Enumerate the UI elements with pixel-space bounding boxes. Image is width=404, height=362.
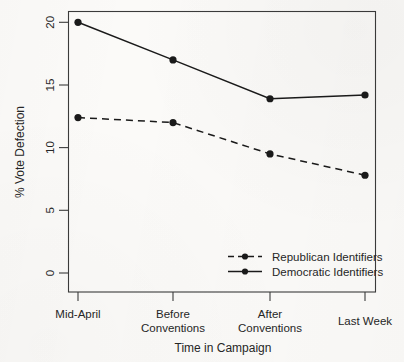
data-point-republican-2	[266, 150, 273, 157]
y-tick-label-10: 10	[44, 141, 56, 154]
y-tick-label-20: 20	[44, 16, 56, 29]
series-democratic-identifiers	[74, 19, 368, 103]
chart-legend: Republican Identifiers Democratic Identi…	[228, 251, 383, 278]
x-label-mid-april: Mid-April	[55, 308, 100, 320]
legend-item-republican: Republican Identifiers	[228, 251, 383, 263]
x-label-after: After	[258, 308, 282, 320]
y-axis-tick-labels: 20 15 10 5 0	[44, 16, 56, 276]
data-point-democratic-3	[361, 91, 368, 98]
series-points-democratic	[74, 19, 368, 103]
series-republican-identifiers	[74, 114, 368, 179]
x-label-after-conventions: Conventions	[238, 322, 302, 334]
legend-item-democratic: Democratic Identifiers	[228, 266, 383, 278]
y-tick-label-5: 5	[44, 207, 56, 213]
y-axis-title: % Vote Defection	[13, 106, 27, 198]
y-tick-label-15: 15	[44, 79, 56, 92]
x-axis-category-labels: Mid-April Before Conventions After Conve…	[55, 308, 392, 334]
x-label-last-week: Last Week	[338, 315, 392, 327]
legend-label-republican: Republican Identifiers	[272, 251, 383, 263]
data-point-republican-0	[74, 114, 81, 121]
data-point-democratic-1	[169, 56, 176, 63]
y-tick-label-0: 0	[44, 270, 56, 276]
vote-defection-line-chart: 20 15 10 5 0 % Vote Defection Mid-April …	[0, 0, 404, 362]
legend-label-democratic: Democratic Identifiers	[272, 266, 383, 278]
legend-marker-democratic-icon	[242, 268, 248, 274]
y-axis-ticks	[59, 22, 68, 273]
series-points-republican	[74, 114, 368, 179]
chart-figure: 20 15 10 5 0 % Vote Defection Mid-April …	[0, 0, 404, 362]
x-axis-title: Time in Campaign	[175, 341, 272, 355]
data-point-republican-3	[361, 172, 368, 179]
series-line-democratic	[78, 22, 365, 98]
data-point-republican-1	[169, 119, 176, 126]
x-axis-ticks	[78, 292, 365, 301]
data-point-democratic-2	[266, 95, 273, 102]
legend-marker-republican-icon	[242, 253, 248, 259]
series-line-republican	[78, 118, 365, 176]
data-point-democratic-0	[74, 19, 81, 26]
x-label-before: Before	[156, 308, 190, 320]
x-label-before-conventions: Conventions	[141, 322, 205, 334]
